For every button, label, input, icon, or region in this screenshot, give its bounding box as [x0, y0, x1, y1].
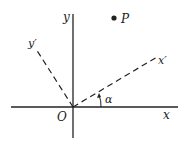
- x-axis-label: x: [163, 108, 170, 122]
- y-axis-label: y: [62, 10, 70, 24]
- point-p: [111, 15, 116, 20]
- y-prime-axis: [36, 49, 73, 107]
- angle-label: α: [105, 93, 113, 106]
- angle-arrowhead-icon: [97, 93, 101, 98]
- origin-label: O: [57, 110, 67, 124]
- rotated-axes-diagram: y x O x′ y′ P α: [0, 0, 182, 145]
- x-prime-axis: [73, 57, 157, 107]
- x-prime-label: x′: [158, 54, 167, 67]
- y-prime-label: y′: [27, 37, 37, 50]
- point-p-label: P: [120, 12, 130, 26]
